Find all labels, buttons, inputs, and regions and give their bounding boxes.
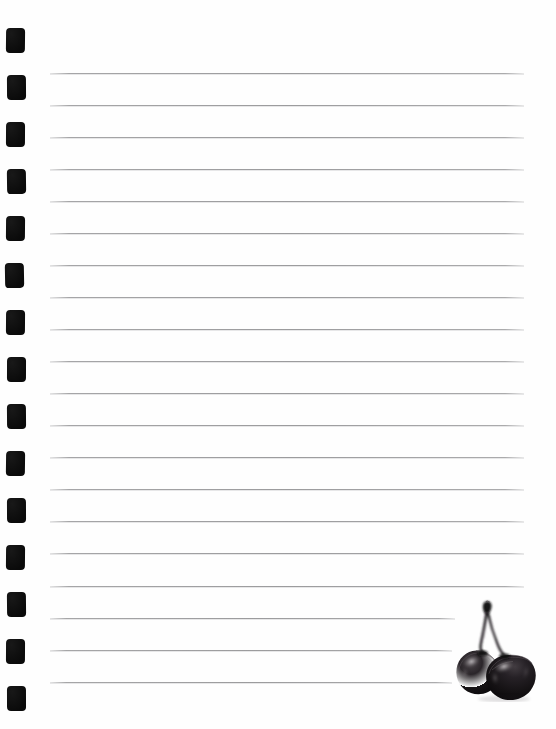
binder-hole [6, 639, 25, 664]
binder-hole [7, 404, 26, 429]
rule-line [50, 521, 524, 522]
binder-hole [6, 122, 25, 147]
rule-line [50, 425, 524, 426]
rule-line [50, 618, 455, 619]
binder-hole [7, 169, 26, 194]
notebook-page [0, 0, 556, 729]
binder-hole [6, 28, 25, 53]
binder-hole [6, 216, 25, 241]
rule-line [50, 137, 524, 138]
rule-line [50, 393, 524, 394]
rule-line [50, 297, 524, 298]
binder-hole [7, 357, 26, 382]
rule-line [50, 105, 524, 106]
cherries-photo [452, 598, 550, 702]
binder-hole [5, 263, 24, 288]
rule-line [50, 265, 524, 266]
cherry-right [486, 655, 536, 700]
binder-hole [6, 310, 25, 335]
binder-hole [6, 545, 25, 570]
rule-line [50, 682, 452, 683]
binder-hole [6, 451, 25, 476]
binder-hole [7, 75, 26, 100]
binder-hole [7, 686, 26, 711]
rule-line [50, 586, 524, 587]
rule-line [50, 361, 524, 362]
binder-hole [7, 498, 26, 523]
rule-line [50, 169, 524, 170]
binder-hole [7, 592, 26, 617]
cherry-stems [481, 613, 504, 655]
rule-line [50, 457, 524, 458]
binder-hole-strip [0, 0, 34, 729]
rule-line [50, 489, 524, 490]
rule-line [50, 201, 524, 202]
rule-line [50, 73, 524, 74]
rule-line [50, 553, 524, 554]
rule-line [50, 233, 524, 234]
rule-line [50, 650, 452, 651]
rule-line [50, 329, 524, 330]
